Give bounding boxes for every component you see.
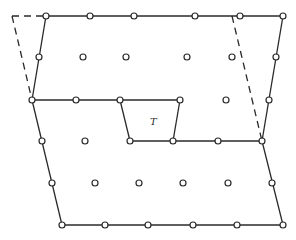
lattice-node xyxy=(170,138,176,144)
lattice-node xyxy=(102,222,108,228)
lattice-node xyxy=(117,97,123,103)
lattice-node xyxy=(190,222,196,228)
lattice-node xyxy=(39,138,45,144)
lattice-node xyxy=(273,54,279,60)
lattice-node xyxy=(29,97,35,103)
lattice-node xyxy=(59,222,65,228)
lattice-node xyxy=(127,138,133,144)
lattice-node xyxy=(82,138,88,144)
lattice-diagram: T xyxy=(0,0,296,240)
lattice-node xyxy=(234,222,240,228)
lattice-node xyxy=(123,54,129,60)
lattice-node xyxy=(229,54,235,60)
lattice-node xyxy=(73,97,79,103)
lattice-nodes xyxy=(29,13,286,228)
lattice-node xyxy=(223,97,229,103)
lattice-node xyxy=(49,180,55,186)
lattice-node xyxy=(225,180,231,186)
lattice-node xyxy=(80,54,86,60)
lattice-node xyxy=(237,13,243,19)
lattice-node xyxy=(192,13,198,19)
lattice-node xyxy=(184,54,190,60)
solid-edges xyxy=(32,16,283,225)
lattice-node xyxy=(259,138,265,144)
solid-edge xyxy=(32,100,62,225)
lattice-node xyxy=(43,13,49,19)
lattice-node xyxy=(92,180,98,186)
lattice-node xyxy=(145,222,151,228)
lattice-node xyxy=(280,222,286,228)
dashed-edges xyxy=(12,16,262,141)
lattice-node xyxy=(180,180,186,186)
region-label-t: T xyxy=(150,116,158,127)
lattice-node xyxy=(269,180,275,186)
lattice-node xyxy=(266,97,272,103)
solid-edge xyxy=(173,100,180,141)
lattice-node xyxy=(87,13,93,19)
lattice-node xyxy=(215,138,221,144)
dashed-edge xyxy=(232,16,262,141)
lattice-node xyxy=(36,54,42,60)
lattice-node xyxy=(177,97,183,103)
lattice-node xyxy=(136,180,142,186)
lattice-node xyxy=(131,13,137,19)
dashed-edge xyxy=(12,16,32,100)
lattice-node xyxy=(280,13,286,19)
solid-edge xyxy=(120,100,130,141)
solid-edge xyxy=(262,16,283,141)
